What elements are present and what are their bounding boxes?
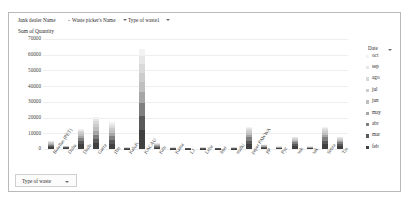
- gridline: [43, 133, 348, 134]
- y-axis-tick-label: 0: [1, 146, 41, 151]
- y-axis-tick-label: 20000: [1, 115, 41, 120]
- legend-label: feb: [372, 143, 379, 149]
- legend-swatch: [366, 100, 369, 103]
- chart-legend: Date octsepagojuljunmayabrmarfeb: [358, 45, 402, 154]
- legend-label: oct: [372, 52, 378, 58]
- bar-segment: [139, 73, 145, 82]
- legend-label: may: [372, 109, 381, 115]
- y-axis-tick-label: 30000: [1, 99, 41, 104]
- y-axis-tick-label: 10000: [1, 131, 41, 136]
- legend-swatch: [366, 146, 369, 149]
- bar-stack[interactable]: [139, 49, 145, 150]
- bar-segment: [109, 144, 115, 149]
- bar-stack[interactable]: [109, 122, 115, 149]
- gridline: [43, 70, 348, 71]
- bar-segment: [139, 103, 145, 116]
- legend-label: ago: [372, 74, 380, 80]
- funnel-icon[interactable]: ⌄: [67, 17, 71, 23]
- slicer-type-of-waste[interactable]: Type of waste: [15, 174, 77, 187]
- x-axis-tick-label: PP: [265, 147, 272, 155]
- legend-item: mar: [358, 131, 402, 142]
- chevron-down-icon[interactable]: [65, 181, 69, 183]
- legend-swatch: [366, 55, 369, 58]
- legend-swatch: [366, 77, 369, 80]
- bar-stack[interactable]: [246, 127, 252, 149]
- legend-label: jun: [372, 97, 379, 103]
- x-axis-tick-label: Tin: [341, 146, 349, 155]
- pivot-field-button-0[interactable]: Junk dealer Name: [18, 15, 55, 25]
- slicer-label: Type of waste: [22, 178, 51, 184]
- chevron-down-icon[interactable]: [123, 19, 127, 21]
- pivot-field-button-2[interactable]: Type of waste1: [128, 15, 160, 25]
- y-axis-tick-label: 40000: [1, 84, 41, 89]
- legend-item: abr: [358, 119, 402, 130]
- bar-stack[interactable]: [48, 141, 54, 149]
- bar-stack[interactable]: [337, 137, 343, 149]
- legend-label: mar: [372, 131, 380, 137]
- legend-swatch: [366, 123, 369, 126]
- gridline: [43, 118, 348, 119]
- legend-swatch: [366, 112, 369, 115]
- y-axis-tick-label: 60000: [1, 52, 41, 57]
- gridline: [43, 39, 348, 40]
- pivot-field-bar: Junk dealer Name⌄Waste picker's NameType…: [9, 13, 400, 27]
- legend-label: abr: [372, 120, 379, 126]
- chevron-down-icon[interactable]: [166, 19, 170, 21]
- legend-item: sep: [358, 62, 402, 73]
- legend-item: may: [358, 108, 402, 119]
- bar-segment: [139, 49, 145, 57]
- bar-segment: [139, 116, 145, 130]
- bar-segment: [139, 82, 145, 92]
- legend-swatch: [366, 89, 369, 92]
- bar-stack[interactable]: [322, 127, 328, 149]
- legend-swatch: [366, 66, 369, 69]
- gridline: [43, 55, 348, 56]
- legend-item: ago: [358, 74, 402, 85]
- legend-item: feb: [358, 142, 402, 153]
- legend-item: jul: [358, 85, 402, 96]
- chart-title: Sum of Quantity: [18, 28, 54, 34]
- bar-segment: [139, 92, 145, 103]
- chart-plot-area: 700006000050000400003000020000100000Bote…: [43, 39, 348, 149]
- bar-stack[interactable]: [93, 117, 99, 149]
- bar-segment: [139, 64, 145, 73]
- bar-stack[interactable]: [78, 129, 84, 149]
- bar-segment: [139, 56, 145, 64]
- pivot-field-button-1[interactable]: Waste picker's Name: [72, 15, 115, 25]
- legend-label: jul: [372, 86, 377, 92]
- y-axis-tick-label: 50000: [1, 68, 41, 73]
- pivotchart-window: Junk dealer Name⌄Waste picker's NameType…: [8, 12, 401, 192]
- gridline: [43, 102, 348, 103]
- legend-item: jun: [358, 97, 402, 108]
- x-axis-tick-label: Pyc: [280, 146, 289, 155]
- legend-swatch: [366, 134, 369, 137]
- y-axis-tick-label: 70000: [1, 36, 41, 41]
- bar-segment: [139, 130, 145, 149]
- legend-item: oct: [358, 51, 402, 62]
- bar-stack[interactable]: [292, 137, 298, 149]
- gridline: [43, 86, 348, 87]
- legend-label: sep: [372, 63, 379, 69]
